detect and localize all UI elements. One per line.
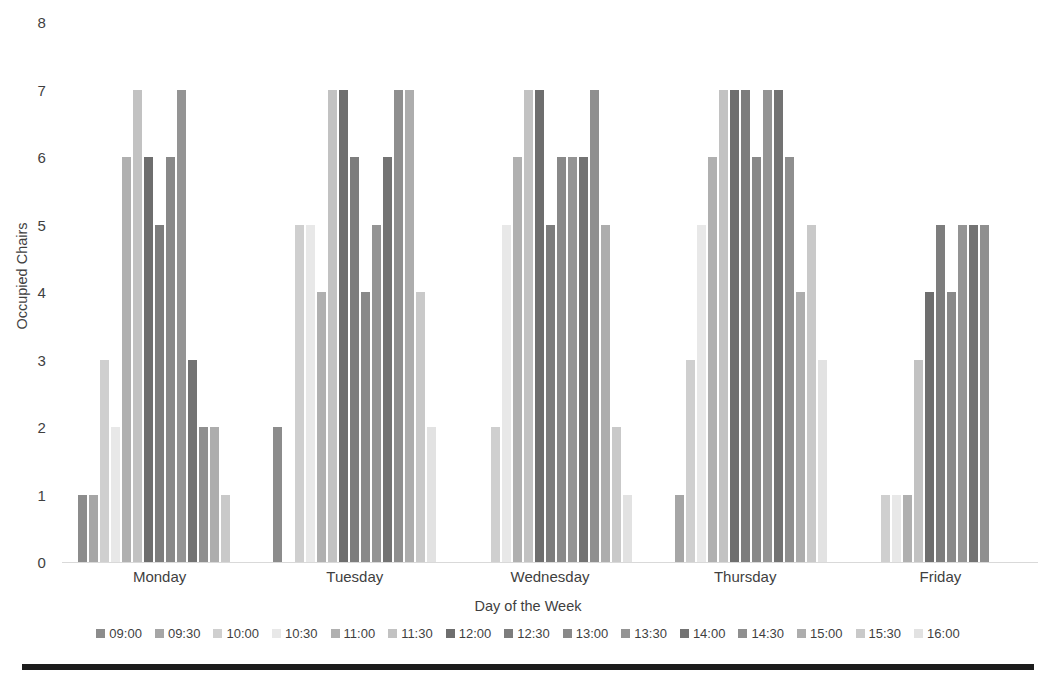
bar-groups bbox=[62, 22, 1038, 562]
legend-item[interactable]: 11:00 bbox=[331, 626, 376, 641]
bar[interactable] bbox=[513, 157, 522, 562]
bar[interactable] bbox=[881, 495, 890, 563]
bar[interactable] bbox=[361, 292, 370, 562]
bar[interactable] bbox=[221, 495, 230, 563]
bar[interactable] bbox=[903, 495, 912, 563]
bar[interactable] bbox=[188, 360, 197, 563]
legend-swatch-icon bbox=[856, 629, 865, 638]
bar[interactable] bbox=[568, 157, 577, 562]
bar[interactable] bbox=[697, 225, 706, 563]
bar[interactable] bbox=[980, 225, 989, 563]
bar[interactable] bbox=[491, 427, 500, 562]
bar[interactable] bbox=[796, 292, 805, 562]
x-axis-tick-label: Friday bbox=[843, 568, 1038, 596]
legend-item[interactable]: 16:00 bbox=[914, 626, 960, 641]
bar[interactable] bbox=[273, 427, 282, 562]
bar[interactable] bbox=[295, 225, 304, 563]
legend-item[interactable]: 11:30 bbox=[388, 626, 433, 641]
bar[interactable] bbox=[89, 495, 98, 563]
bar[interactable] bbox=[958, 225, 967, 563]
bar[interactable] bbox=[925, 292, 934, 562]
legend-item[interactable]: 10:00 bbox=[213, 626, 259, 641]
bar[interactable] bbox=[818, 360, 827, 563]
bar[interactable] bbox=[579, 157, 588, 562]
bar[interactable] bbox=[383, 157, 392, 562]
bar[interactable] bbox=[416, 292, 425, 562]
bar[interactable] bbox=[394, 90, 403, 563]
bar[interactable] bbox=[719, 90, 728, 563]
bar[interactable] bbox=[546, 225, 555, 563]
bar[interactable] bbox=[339, 90, 348, 563]
legend-item[interactable]: 10:30 bbox=[272, 626, 318, 641]
bar[interactable] bbox=[133, 90, 142, 563]
bar[interactable] bbox=[199, 427, 208, 562]
legend-swatch-icon bbox=[446, 629, 455, 638]
bar[interactable] bbox=[763, 90, 772, 563]
bar[interactable] bbox=[405, 90, 414, 563]
bar[interactable] bbox=[892, 495, 901, 563]
bar[interactable] bbox=[785, 157, 794, 562]
bar[interactable] bbox=[535, 90, 544, 563]
bar[interactable] bbox=[100, 360, 109, 563]
x-axis-tick-label: Tuesday bbox=[257, 568, 452, 596]
bar[interactable] bbox=[612, 427, 621, 562]
bar[interactable] bbox=[166, 157, 175, 562]
bar[interactable] bbox=[144, 157, 153, 562]
bar[interactable] bbox=[947, 292, 956, 562]
legend-item[interactable]: 09:30 bbox=[155, 626, 201, 641]
bar[interactable] bbox=[601, 225, 610, 563]
legend-swatch-icon bbox=[155, 629, 164, 638]
bar[interactable] bbox=[675, 495, 684, 563]
bar[interactable] bbox=[730, 90, 739, 563]
legend-item[interactable]: 14:30 bbox=[738, 626, 784, 641]
legend-swatch-icon bbox=[563, 629, 572, 638]
bar[interactable] bbox=[122, 157, 131, 562]
legend-item[interactable]: 15:00 bbox=[797, 626, 843, 641]
bar[interactable] bbox=[752, 157, 761, 562]
bar[interactable] bbox=[328, 90, 337, 563]
legend-label: 13:30 bbox=[634, 626, 667, 641]
bar[interactable] bbox=[590, 90, 599, 563]
legend-item[interactable]: 14:00 bbox=[680, 626, 726, 641]
bar[interactable] bbox=[936, 225, 945, 563]
bar[interactable] bbox=[317, 292, 326, 562]
chart-legend: 09:0009:3010:0010:3011:0011:3012:0012:30… bbox=[0, 626, 1056, 641]
bar[interactable] bbox=[177, 90, 186, 563]
legend-swatch-icon bbox=[213, 629, 222, 638]
bar[interactable] bbox=[807, 225, 816, 563]
bar[interactable] bbox=[155, 225, 164, 563]
legend-label: 14:00 bbox=[693, 626, 726, 641]
legend-label: 14:30 bbox=[751, 626, 784, 641]
bar[interactable] bbox=[111, 427, 120, 562]
bottom-rule bbox=[22, 664, 1034, 670]
bar[interactable] bbox=[502, 225, 511, 563]
bar[interactable] bbox=[969, 225, 978, 563]
y-axis: 876543210 bbox=[0, 22, 62, 562]
bar[interactable] bbox=[708, 157, 717, 562]
legend-item[interactable]: 09:00 bbox=[96, 626, 142, 641]
legend-item[interactable]: 13:30 bbox=[621, 626, 667, 641]
bar[interactable] bbox=[524, 90, 533, 563]
bar[interactable] bbox=[774, 90, 783, 563]
bar[interactable] bbox=[210, 427, 219, 562]
legend-item[interactable]: 12:00 bbox=[446, 626, 492, 641]
bar[interactable] bbox=[78, 495, 87, 563]
bar[interactable] bbox=[686, 360, 695, 563]
legend-item[interactable]: 15:30 bbox=[856, 626, 902, 641]
bar[interactable] bbox=[427, 427, 436, 562]
bar[interactable] bbox=[372, 225, 381, 563]
legend-item[interactable]: 12:30 bbox=[504, 626, 550, 641]
bar[interactable] bbox=[741, 90, 750, 563]
bar[interactable] bbox=[914, 360, 923, 563]
y-axis-tick-label: 4 bbox=[37, 284, 46, 301]
bar[interactable] bbox=[557, 157, 566, 562]
bar[interactable] bbox=[306, 225, 315, 563]
bar[interactable] bbox=[623, 495, 632, 563]
bar-group-bars bbox=[469, 22, 632, 562]
bar-group bbox=[843, 22, 1038, 562]
x-axis-tick-label: Monday bbox=[62, 568, 257, 596]
legend-swatch-icon bbox=[621, 629, 630, 638]
legend-swatch-icon bbox=[331, 629, 340, 638]
bar[interactable] bbox=[350, 157, 359, 562]
legend-item[interactable]: 13:00 bbox=[563, 626, 609, 641]
